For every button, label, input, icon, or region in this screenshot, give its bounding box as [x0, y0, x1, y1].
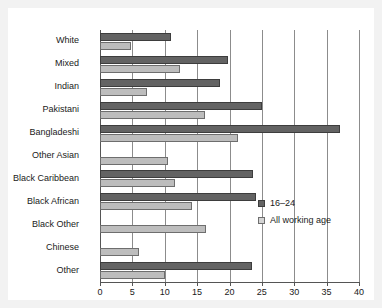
bar-other-asian-allage — [100, 157, 168, 165]
gridline-35 — [327, 30, 328, 282]
bar-mixed-allage — [100, 65, 180, 73]
tick-mark-40 — [359, 282, 360, 286]
category-label-chinese: Chinese — [46, 242, 79, 253]
gridline-40 — [359, 30, 360, 282]
legend-label-allage: All working age — [270, 215, 331, 226]
bar-bangladeshi-allage — [100, 134, 238, 142]
tick-label-35: 35 — [322, 287, 332, 298]
bar-mixed-young — [100, 56, 228, 64]
category-label-other-asian: Other Asian — [32, 150, 79, 161]
bar-white-allage — [100, 42, 131, 50]
bar-other-allage — [100, 271, 165, 279]
chart-legend: 16–24 All working age — [258, 198, 331, 232]
bar-white-young — [100, 33, 171, 41]
legend-item-allage[interactable]: All working age — [258, 215, 331, 226]
category-label-pakistani: Pakistani — [42, 104, 79, 115]
legend-swatch-icon-young — [258, 200, 265, 207]
bar-black-caribbean-allage — [100, 179, 175, 187]
bar-black-african-young — [100, 193, 256, 201]
tick-label-30: 30 — [289, 287, 299, 298]
category-label-indian: Indian — [54, 81, 79, 92]
tick-label-25: 25 — [257, 287, 267, 298]
gridline-15 — [197, 30, 198, 282]
gridline-30 — [294, 30, 295, 282]
tick-mark-0 — [100, 282, 101, 286]
bar-bangladeshi-young — [100, 125, 340, 133]
bar-pakistani-young — [100, 102, 262, 110]
tick-mark-30 — [294, 282, 295, 286]
legend-label-young: 16–24 — [270, 198, 295, 209]
gridline-25 — [262, 30, 263, 282]
bar-chart-figure: 0510152025303540 WhiteMixedIndianPakista… — [0, 0, 382, 308]
category-label-black-caribbean: Black Caribbean — [13, 173, 79, 184]
category-label-black-other: Black Other — [32, 219, 79, 230]
bar-black-caribbean-young — [100, 170, 253, 178]
category-label-other: Other — [56, 265, 79, 276]
tick-mark-10 — [165, 282, 166, 286]
tick-label-40: 40 — [354, 287, 364, 298]
tick-label-20: 20 — [224, 287, 234, 298]
bar-black-other-allage — [100, 225, 206, 233]
tick-label-0: 0 — [97, 287, 102, 298]
bar-indian-young — [100, 79, 220, 87]
bar-other-young — [100, 262, 252, 270]
bar-chinese-allage — [100, 248, 139, 256]
legend-item-young[interactable]: 16–24 — [258, 198, 331, 209]
gridline-20 — [230, 30, 231, 282]
category-label-bangladeshi: Bangladeshi — [29, 127, 79, 138]
bar-indian-allage — [100, 88, 147, 96]
tick-mark-35 — [327, 282, 328, 286]
category-label-mixed: Mixed — [55, 58, 79, 69]
category-label-black-african: Black African — [27, 196, 79, 207]
tick-mark-25 — [262, 282, 263, 286]
tick-mark-5 — [132, 282, 133, 286]
bar-pakistani-allage — [100, 111, 205, 119]
tick-label-5: 5 — [130, 287, 135, 298]
tick-mark-15 — [197, 282, 198, 286]
legend-swatch-icon-allage — [258, 217, 265, 224]
category-label-white: White — [56, 35, 79, 46]
tick-label-10: 10 — [160, 287, 170, 298]
tick-mark-20 — [230, 282, 231, 286]
tick-label-15: 15 — [192, 287, 202, 298]
bar-black-african-allage — [100, 202, 192, 210]
